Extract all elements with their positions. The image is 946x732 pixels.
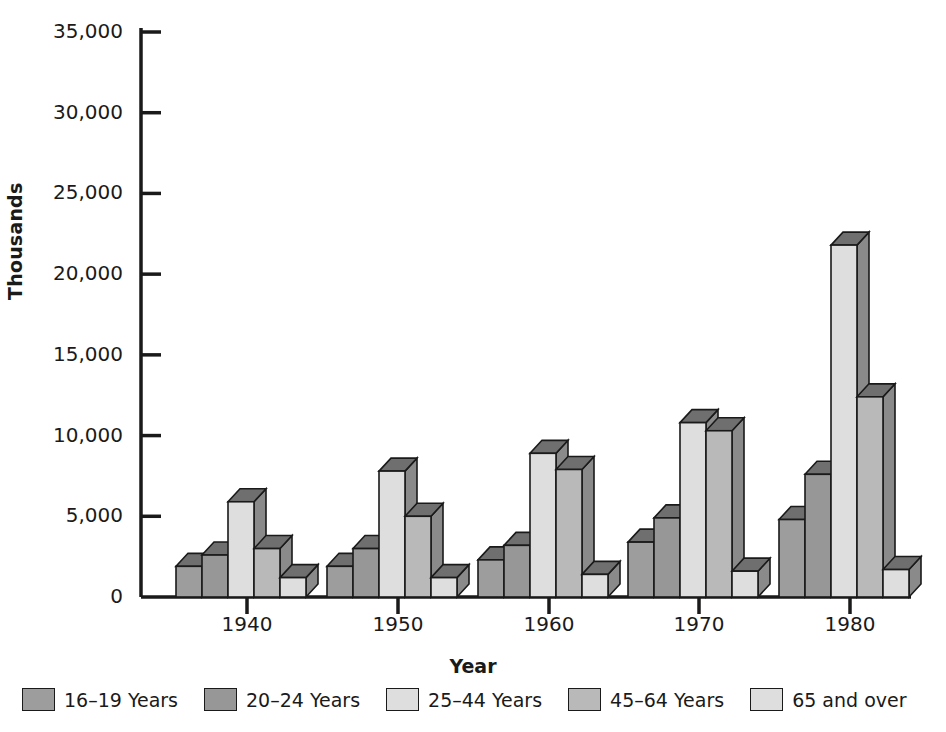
legend-swatch-icon	[386, 688, 419, 711]
legend-label: 20–24 Years	[246, 689, 360, 711]
legend-swatch-icon	[204, 688, 237, 711]
legend-item-5[interactable]: 65 and over	[750, 688, 906, 711]
legend-swatch-icon	[568, 688, 601, 711]
chart-legend: 16–19 Years20–24 Years25–44 Years45–64 Y…	[22, 688, 928, 711]
legend-item-2[interactable]: 20–24 Years	[204, 688, 360, 711]
legend-label: 25–44 Years	[428, 689, 542, 711]
legend-item-3[interactable]: 25–44 Years	[386, 688, 542, 711]
legend-item-1[interactable]: 16–19 Years	[22, 688, 178, 711]
legend-label: 16–19 Years	[64, 689, 178, 711]
legend-swatch-icon	[750, 688, 783, 711]
legend-swatch-icon	[22, 688, 55, 711]
bar-1970-5	[732, 558, 770, 597]
bar-chart: Thousands Year 05,00010,00015,00020,0002…	[0, 0, 946, 732]
legend-label: 45–64 Years	[610, 689, 724, 711]
plot-area	[0, 0, 946, 732]
legend-item-4[interactable]: 45–64 Years	[568, 688, 724, 711]
legend-label: 65 and over	[792, 689, 906, 711]
bar-1980-5	[883, 557, 921, 597]
